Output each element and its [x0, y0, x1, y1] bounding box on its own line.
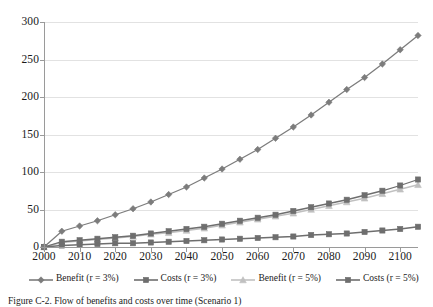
legend-label: Costs (r = 3%) — [161, 273, 217, 283]
x-tick-mark-2030 — [151, 248, 152, 252]
x-tick-mark-2070 — [293, 248, 294, 252]
legend-label: Costs (r = 5%) — [363, 273, 419, 283]
legend-label: Benefit (r = 3%) — [56, 273, 119, 283]
legend-entry-4[interactable]: Costs (r = 5%) — [335, 272, 419, 284]
x-tick-mark-2050 — [222, 248, 223, 252]
legend-marker-triangle-icon — [230, 272, 256, 284]
legend-marker-diamond-icon — [28, 272, 54, 284]
x-tick-mark-2020 — [115, 248, 116, 252]
x-tick-mark-2040 — [186, 248, 187, 252]
x-tick-mark-2000 — [44, 248, 45, 252]
legend-label: Benefit (r = 5%) — [258, 273, 321, 283]
legend-marker-square-icon — [133, 272, 159, 284]
legend-entry-2[interactable]: Costs (r = 3%) — [133, 272, 217, 284]
x-tick-mark-2090 — [365, 248, 366, 252]
legend-marker-square-icon — [335, 272, 361, 284]
x-axis-tick-labels: 2000201020202030204020502060207020802090… — [0, 0, 433, 307]
legend-entry-1[interactable]: Benefit (r = 3%) — [28, 272, 119, 284]
x-tick-mark-2010 — [80, 248, 81, 252]
legend-entry-3[interactable]: Benefit (r = 5%) — [230, 272, 321, 284]
figure-container: 050100150200250300 200020102020203020402… — [0, 0, 433, 307]
x-tick-mark-2100 — [400, 248, 401, 252]
x-tick-mark-2080 — [329, 248, 330, 252]
chart-legend: Benefit (r = 3%)Costs (r = 3%)Benefit (r… — [28, 270, 420, 286]
figure-caption: Figure C-2. Flow of benefits and costs o… — [8, 296, 428, 307]
x-tick-mark-2060 — [258, 248, 259, 252]
